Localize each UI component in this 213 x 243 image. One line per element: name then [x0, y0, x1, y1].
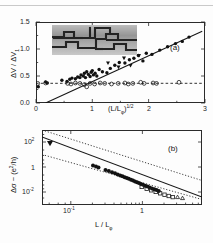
panel-a-y-axis-title: ΔV / ΔV1	[10, 49, 18, 78]
panel-a-ytick-0: 0.0	[20, 99, 30, 106]
panel-a: 1.5 1.0 0.5 0.0 0 1 2 3 (L/Lφ)1/2 ΔV / Δ…	[0, 8, 213, 118]
panel-a-ytick-3: 1.5	[20, 18, 30, 25]
panel-b-xtick-0: 10-1	[63, 207, 75, 214]
panel-a-ytick-1: 0.5	[20, 72, 30, 79]
panel-a-ytick-2: 1.0	[20, 45, 30, 52]
panel-a-xtick-0: 0	[34, 105, 38, 112]
panel-a-xtick-3: 3	[203, 105, 207, 112]
panel-b-x-axis-title: L / Lφ	[95, 221, 112, 229]
panel-a-open-points	[36, 80, 181, 88]
panel-a-xtick-2: 2	[147, 105, 151, 112]
panel-b-xtick-1: 1	[140, 207, 144, 214]
panel-b-ytick-1: 1	[31, 164, 35, 171]
inset-micrograph	[52, 25, 137, 55]
figure-root: 1.5 1.0 0.5 0.0 0 1 2 3 (L/Lφ)1/2 ΔV / Δ…	[0, 0, 213, 243]
page-top-rule	[0, 5, 213, 6]
panel-b-upper-dotted	[42, 130, 202, 181]
panel-a-tag: (a)	[170, 43, 180, 52]
panel-a-xtick-1: 1	[90, 105, 94, 112]
panel-b-ytick-2: 10-2	[22, 188, 34, 195]
panel-b-ytick-0: 102	[24, 138, 34, 145]
panel-b: 102 1 10-2 10-1 1 L / Lφ Δσ − (e2/h) (b)	[0, 120, 213, 243]
panel-b-solid-fit	[42, 137, 202, 197]
panel-a-x-axis-title: (L/Lφ)1/2	[108, 105, 133, 113]
panel-b-y-axis-title: Δσ − (e2/h)	[10, 157, 18, 193]
panel-b-tag: (b)	[168, 144, 178, 153]
